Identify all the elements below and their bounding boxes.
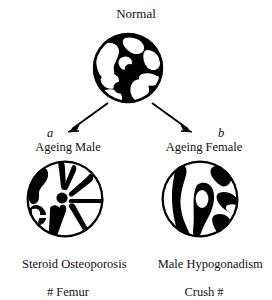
arrow-to-ageing-male-shaft [72, 103, 108, 129]
heading-ageing-male: Ageing Male [0, 140, 136, 154]
branch-letter-b: b [209, 126, 233, 140]
caption-ageing-female: Male Hypogonadism Crush # [136, 243, 272, 300]
arrow-to-ageing-male-head [68, 125, 79, 132]
arrow-to-ageing-female-shaft [152, 103, 188, 129]
caption-ageing-male: Steroid Osteoporosis # Femur [0, 243, 136, 300]
branch-arrows [56, 98, 206, 140]
bone-cross-section-normal-icon [92, 30, 164, 106]
branch-letter-a: a [38, 126, 62, 140]
heading-ageing-female: Ageing Female [136, 140, 272, 154]
arrow-to-ageing-female-head [181, 125, 192, 132]
bone-cross-section-ageing-female-icon [157, 157, 243, 241]
caption-ageing-male-line2: # Femur [0, 285, 136, 299]
caption-ageing-male-line1: Steroid Osteoporosis [22, 257, 127, 271]
caption-ageing-female-line2: Crush # [136, 285, 272, 299]
caption-ageing-female-line1: Male Hypogonadism [158, 257, 263, 271]
bone-cross-section-ageing-male-icon [25, 157, 105, 241]
page-title: Normal [0, 7, 272, 22]
